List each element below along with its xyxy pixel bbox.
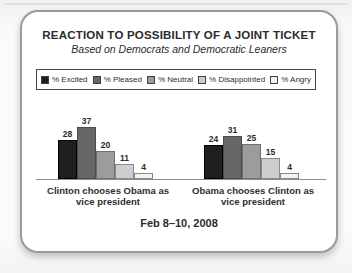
bar-column: 25: [242, 133, 261, 179]
page: REACTION TO POSSIBILITY OF A JOINT TICKE…: [0, 0, 352, 273]
bar-value-label: 31: [228, 125, 237, 135]
legend-item-label: % Excited: [52, 75, 88, 84]
bar-column: 4: [280, 162, 299, 179]
legend-item-label: % Angry: [281, 75, 311, 84]
bar-column: 20: [96, 140, 115, 179]
bar-column: 15: [261, 147, 280, 179]
group-label: Clinton chooses Obama as vice president: [28, 185, 188, 207]
bar-group: 283720114: [58, 116, 153, 179]
bar-chart: 283720114 243125154: [22, 109, 336, 179]
legend-swatch-icon: [93, 76, 101, 84]
group-label-line: Clinton chooses Obama as: [28, 185, 188, 196]
legend-item: % Angry: [270, 75, 311, 84]
chart-subtitle: Based on Democrats and Democratic Leaner…: [22, 43, 336, 55]
chart-header: REACTION TO POSSIBILITY OF A JOINT TICKE…: [22, 29, 336, 55]
legend: % Excited% Pleased% Neutral% Disappointe…: [36, 69, 316, 90]
legend-swatch-icon: [270, 76, 278, 84]
legend-item: % Excited: [41, 75, 88, 84]
bar: [242, 144, 261, 179]
bar-column: 37: [77, 116, 96, 179]
bar-value-label: 25: [247, 133, 256, 143]
bar-value-label: 20: [101, 140, 110, 150]
bar: [96, 151, 115, 179]
group-label-line: vice president: [28, 196, 188, 207]
bar: [115, 164, 134, 179]
bar-group: 243125154: [204, 125, 299, 179]
legend-item: % Neutral: [147, 75, 193, 84]
chart-card: REACTION TO POSSIBILITY OF A JOINT TICKE…: [20, 10, 338, 253]
bar-column: 11: [115, 153, 134, 179]
legend-item-label: % Neutral: [158, 75, 193, 84]
bar: [58, 140, 77, 179]
bar-column: 28: [58, 129, 77, 179]
chart-title: REACTION TO POSSIBILITY OF A JOINT TICKE…: [22, 29, 336, 41]
legend-item-label: % Disappointed: [209, 75, 265, 84]
group-label-line: Obama chooses Clinton as: [173, 185, 333, 196]
bar-column: 24: [204, 134, 223, 179]
bar-value-label: 15: [266, 147, 275, 157]
bar-value-label: 37: [82, 116, 91, 126]
legend-swatch-icon: [198, 76, 206, 84]
bar: [204, 145, 223, 179]
legend-item: % Pleased: [93, 75, 142, 84]
date-label: Feb 8–10, 2008: [22, 217, 336, 229]
legend-swatch-icon: [147, 76, 155, 84]
bar-value-label: 4: [141, 162, 146, 172]
legend-swatch-icon: [41, 76, 49, 84]
legend-item: % Disappointed: [198, 75, 265, 84]
bar: [223, 136, 242, 179]
bar-value-label: 4: [287, 162, 292, 172]
x-axis-line: [36, 179, 326, 180]
bar: [261, 158, 280, 179]
bar-value-label: 28: [63, 129, 72, 139]
group-label-line: vice president: [173, 196, 333, 207]
bar: [77, 127, 96, 179]
group-label: Obama chooses Clinton as vice president: [173, 185, 333, 207]
legend-item-label: % Pleased: [104, 75, 142, 84]
bar-column: 4: [134, 162, 153, 179]
bar-value-label: 24: [209, 134, 218, 144]
top-edge-line: [4, 3, 348, 5]
bar-value-label: 11: [120, 153, 129, 163]
bar-column: 31: [223, 125, 242, 179]
